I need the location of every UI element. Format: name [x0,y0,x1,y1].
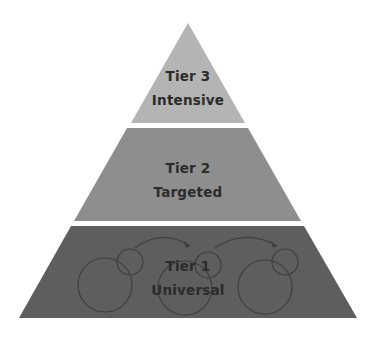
tier-3-name: Tier 3 [128,64,248,88]
tier-2-label: Tier 2 Targeted [128,156,248,204]
tier-1-description: Universal [128,278,248,302]
tier-3-description: Intensive [128,88,248,112]
tier-2-name: Tier 2 [128,156,248,180]
tier-2-description: Targeted [128,180,248,204]
tier-3-label: Tier 3 Intensive [128,64,248,112]
tier-1-label: Tier 1 Universal [128,254,248,302]
tier-1-name: Tier 1 [128,254,248,278]
